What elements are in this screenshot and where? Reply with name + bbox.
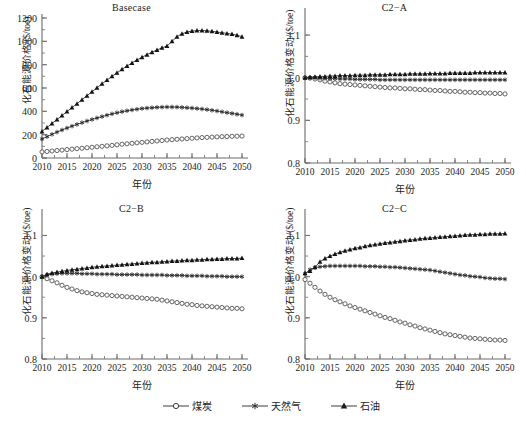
chart-panel-c2c: C2−C化石能源价格变动/($/toe)0.80.91.01.120102015… xyxy=(263,201,526,404)
y-tick-label: 0.9 xyxy=(11,312,37,323)
x-axis-label: 年份 xyxy=(285,377,525,392)
panel-title: C2−C xyxy=(263,203,526,214)
series-天然气 xyxy=(303,264,507,282)
figure-legend: 煤炭 天然气 石油 xyxy=(163,398,380,413)
x-tick-label: 2025 xyxy=(366,363,394,373)
open-circle-icon xyxy=(163,401,189,411)
y-tick-label: 400 xyxy=(9,106,37,117)
x-axis-label: 年份 xyxy=(22,377,262,392)
chart-panel-c2a: C2−A化石能源价格变动/($/toe)0.80.91.01.120102015… xyxy=(263,0,526,208)
x-axis-label: 年份 xyxy=(22,176,262,191)
y-tick-label: 1.0 xyxy=(274,72,300,83)
x-tick-label: 2030 xyxy=(391,363,419,373)
x-tick-label: 2010 xyxy=(28,363,56,373)
y-tick-label: 1.0 xyxy=(11,271,37,282)
legend-label-gas: 天然气 xyxy=(271,398,301,413)
x-tick-label: 2010 xyxy=(28,162,56,172)
x-tick-label: 2030 xyxy=(128,363,156,373)
series-煤炭 xyxy=(303,277,507,342)
y-tick-label: 1.1 xyxy=(274,230,300,241)
x-tick-label: 2040 xyxy=(441,167,469,177)
x-tick-label: 2020 xyxy=(78,162,106,172)
y-tick-label: 1.0 xyxy=(274,271,300,282)
y-tick-label: 0.9 xyxy=(274,115,300,126)
y-tick-label: 200 xyxy=(9,129,37,140)
series-天然气 xyxy=(40,271,244,279)
series-煤炭 xyxy=(40,275,244,311)
y-tick-label: 1.1 xyxy=(11,230,37,241)
chart-panel-basecase: Basecase化石能源价格/($/toe)020040060080010001… xyxy=(0,0,263,203)
x-tick-label: 2035 xyxy=(153,162,181,172)
asterisk-icon xyxy=(242,401,268,411)
x-tick-label: 2045 xyxy=(466,167,494,177)
x-tick-label: 2020 xyxy=(341,167,369,177)
x-tick-label: 2035 xyxy=(416,167,444,177)
y-tick-label: 1000 xyxy=(9,36,37,47)
plot-area xyxy=(263,201,523,361)
x-tick-label: 2040 xyxy=(441,363,469,373)
panel-title: C2−A xyxy=(263,2,526,13)
x-tick-label: 2040 xyxy=(178,162,206,172)
x-tick-label: 2045 xyxy=(466,363,494,373)
x-tick-label: 2030 xyxy=(128,162,156,172)
x-tick-label: 2020 xyxy=(341,363,369,373)
legend-label-coal: 煤炭 xyxy=(192,398,212,413)
x-tick-label: 2045 xyxy=(203,162,231,172)
x-tick-label: 2015 xyxy=(53,363,81,373)
x-tick-label: 2025 xyxy=(366,167,394,177)
x-tick-label: 2025 xyxy=(103,363,131,373)
plot-area xyxy=(263,0,523,165)
chart-panel-c2b: C2−B化石能源价格变动/($/toe)0.80.91.01.120102015… xyxy=(0,201,263,404)
filled-triangle-icon xyxy=(331,401,357,411)
series-石油 xyxy=(40,28,245,133)
legend-label-oil: 石油 xyxy=(360,398,380,413)
legend-item-gas: 天然气 xyxy=(242,398,301,413)
legend-item-oil: 石油 xyxy=(331,398,380,413)
plot-area xyxy=(0,0,260,160)
x-tick-label: 2015 xyxy=(316,167,344,177)
legend-item-coal: 煤炭 xyxy=(163,398,212,413)
x-tick-label: 2035 xyxy=(416,363,444,373)
series-煤炭 xyxy=(40,134,244,154)
x-tick-label: 2040 xyxy=(178,363,206,373)
y-tick-label: 1.1 xyxy=(274,30,300,41)
x-tick-label: 2035 xyxy=(153,363,181,373)
y-tick-label: 600 xyxy=(9,83,37,94)
y-tick-label: 1200 xyxy=(9,13,37,24)
x-tick-label: 2010 xyxy=(291,167,319,177)
x-tick-label: 2045 xyxy=(203,363,231,373)
x-tick-label: 2050 xyxy=(228,162,256,172)
x-tick-label: 2030 xyxy=(391,167,419,177)
x-tick-label: 2050 xyxy=(228,363,256,373)
x-tick-label: 2015 xyxy=(316,363,344,373)
y-tick-label: 0.9 xyxy=(274,312,300,323)
x-axis-label: 年份 xyxy=(285,181,525,196)
panel-title: Basecase xyxy=(0,2,263,13)
x-tick-label: 2050 xyxy=(491,363,519,373)
x-tick-label: 2015 xyxy=(53,162,81,172)
y-tick-label: 800 xyxy=(9,59,37,70)
panel-title: C2−B xyxy=(0,203,263,214)
x-tick-label: 2025 xyxy=(103,162,131,172)
x-tick-label: 2020 xyxy=(78,363,106,373)
x-tick-label: 2010 xyxy=(291,363,319,373)
x-tick-label: 2050 xyxy=(491,167,519,177)
plot-area xyxy=(0,201,260,361)
